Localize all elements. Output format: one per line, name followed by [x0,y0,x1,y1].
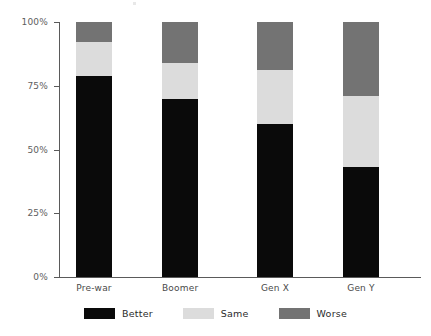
legend-item-worse[interactable]: Worse [279,308,347,319]
plot-area: 100%75%50%25%0% Pre-warBoomerGen XGen Y [0,0,431,336]
x-category-label: Gen Y [343,283,379,293]
bar-group[interactable] [257,22,293,277]
y-tick-label: 25% [27,208,48,218]
y-tick-label: 50% [27,145,48,155]
bar-segment-same[interactable] [257,70,293,124]
legend-label: Same [221,308,249,319]
legend-item-same[interactable]: Same [183,308,249,319]
y-tick-mark [54,277,59,278]
legend-swatch-icon [279,308,310,319]
y-tick-mark [54,213,59,214]
legend-swatch-icon [84,308,115,319]
stacked-bar-chart: 100%75%50%25%0% Pre-warBoomerGen XGen Y … [0,0,431,336]
bar-segment-worse[interactable] [162,22,198,63]
bar-segment-worse[interactable] [257,22,293,70]
bar-segment-better[interactable] [162,99,198,278]
y-tick-mark [54,150,59,151]
y-tick-label: 100% [21,17,48,27]
bar-group[interactable] [162,22,198,277]
legend-swatch-icon [183,308,214,319]
bar-segment-worse[interactable] [343,22,379,96]
x-axis-line [59,277,421,278]
bar-segment-worse[interactable] [76,22,112,42]
x-category-label: Pre-war [76,283,112,293]
x-category-label: Gen X [257,283,293,293]
y-axis-line [59,22,60,278]
y-tick-label: 0% [33,272,48,282]
legend-item-better[interactable]: Better [84,308,153,319]
bar-segment-same[interactable] [343,96,379,167]
bar-group[interactable] [76,22,112,277]
bar-group[interactable] [343,22,379,277]
y-tick-mark [54,86,59,87]
y-tick-label: 75% [27,81,48,91]
chart-legend: BetterSameWorse [0,308,431,319]
legend-label: Better [122,308,153,319]
x-category-label: Boomer [162,283,198,293]
bar-segment-better[interactable] [257,124,293,277]
legend-label: Worse [317,308,347,319]
y-tick-mark [54,22,59,23]
bar-segment-better[interactable] [76,76,112,277]
bar-segment-better[interactable] [343,167,379,277]
bar-segment-same[interactable] [76,42,112,75]
bar-segment-same[interactable] [162,63,198,99]
